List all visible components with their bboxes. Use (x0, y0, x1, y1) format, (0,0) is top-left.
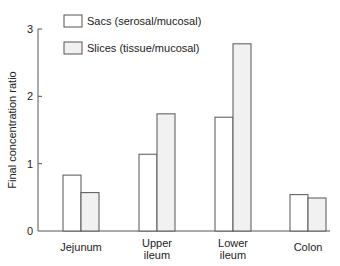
bar-sacs (290, 195, 308, 231)
y-tick-label: 1 (27, 158, 33, 170)
chart-legend: Sacs (serosal/mucosal) Slices (tissue/mu… (64, 15, 201, 54)
bar-slices (233, 44, 251, 231)
x-category-label: Jejunum (60, 241, 102, 253)
legend-swatch-sacs (64, 15, 82, 27)
x-category-label: Colon (294, 241, 323, 253)
bar-sacs (139, 154, 157, 231)
x-category-label: Upperileum (142, 237, 172, 261)
bar-slices (81, 193, 99, 231)
legend-label-sacs: Sacs (serosal/mucosal) (87, 15, 201, 27)
y-tick-label: 2 (27, 90, 33, 102)
bar-slices (157, 114, 175, 231)
y-tick-label: 0 (27, 225, 33, 237)
x-category-label: Lowerileum (218, 237, 248, 261)
y-axis-label: Final concentration ratio (6, 71, 18, 188)
legend-swatch-slices (64, 42, 82, 54)
bar-sacs (63, 175, 81, 231)
bar-sacs (215, 117, 233, 231)
bar-series (63, 44, 326, 231)
x-axis-labels: JejunumUpperileumLowerileumColon (60, 237, 322, 261)
bar-chart: Sacs (serosal/mucosal) Slices (tissue/mu… (0, 0, 340, 266)
bar-slices (308, 198, 326, 231)
legend-label-slices: Slices (tissue/mucosal) (87, 42, 199, 54)
y-tick-label: 3 (27, 23, 33, 35)
